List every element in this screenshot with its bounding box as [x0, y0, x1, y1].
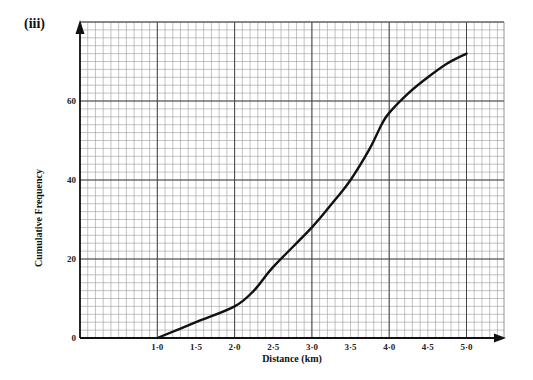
- x-tick-label: 5·0: [460, 342, 473, 352]
- x-tick-label: 2·0: [229, 342, 242, 352]
- x-tick-label: 2·5: [267, 342, 280, 352]
- x-tick-label: 4·5: [422, 342, 435, 352]
- y-tick-label: 0: [72, 333, 77, 343]
- x-tick-label: 1·0: [151, 342, 164, 352]
- cumulative-frequency-chart: 1·01·52·02·53·03·54·04·55·0 0204060 Dist…: [0, 0, 533, 380]
- y-tick-label: 20: [67, 254, 77, 264]
- x-tick-label: 1·5: [190, 342, 203, 352]
- x-tick-label: 3·5: [345, 342, 358, 352]
- y-tick-label: 60: [67, 96, 77, 106]
- y-tick-label: 40: [67, 175, 77, 185]
- y-tick-labels: 0204060: [67, 96, 77, 343]
- x-tick-label: 4·0: [383, 342, 396, 352]
- y-axis-title: Cumulative Frequency: [33, 169, 44, 267]
- x-tick-labels: 1·01·52·02·53·03·54·04·55·0: [151, 342, 473, 352]
- x-tick-label: 3·0: [306, 342, 319, 352]
- x-axis-title: Distance (km): [262, 353, 322, 365]
